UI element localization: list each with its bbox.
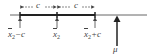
- label-center: x2: [53, 30, 60, 40]
- label-mu: μ: [113, 45, 118, 54]
- mu-arrowhead-icon: [114, 16, 121, 23]
- suffix: +c: [91, 29, 101, 39]
- dimension-label-right: c: [74, 1, 78, 10]
- label-upper-bound: x2+c: [84, 30, 101, 40]
- suffix: −c: [15, 29, 25, 39]
- dimension-label-left: c: [36, 1, 40, 10]
- label-lower-bound: x2−c: [8, 30, 25, 40]
- subscript: 2: [57, 34, 60, 40]
